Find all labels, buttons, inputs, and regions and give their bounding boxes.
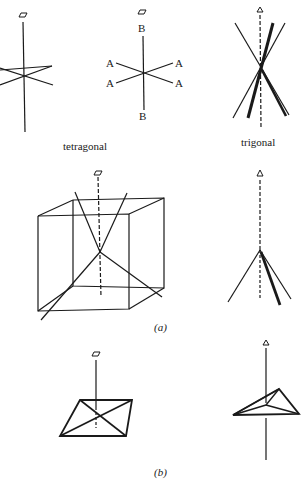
threefold-axis-icon [263,340,269,345]
label-trigonal: trigonal [241,136,275,148]
fourfold-axis-icon [94,171,102,175]
cube-diagram [38,171,164,320]
trigonal-axes [233,7,289,128]
label-tetragonal: tetragonal [63,140,107,152]
crystal-symmetry-diagram [0,0,302,483]
trigonal-umbrella [228,170,291,305]
trigonal-pyramid [233,340,299,460]
caption-a: (a) [154,321,167,333]
axis-label-a-upper-left: A [106,57,114,69]
axis-label-b-top: B [138,22,145,34]
threefold-axis-icon [257,7,263,12]
axis-label-a-lower-right: A [175,77,183,89]
tetragonal-axes-left [0,13,53,132]
caption-b: (b) [154,466,167,478]
axis-label-b-bottom: B [139,110,146,122]
fourfold-axis-icon [92,352,100,356]
fourfold-axis-icon [138,10,146,14]
axis-label-a-upper-right: A [175,57,183,69]
axis-label-a-lower-left: A [106,77,114,89]
square-planar [60,352,132,436]
fourfold-axis-icon [19,13,27,17]
threefold-axis-icon [257,170,263,176]
